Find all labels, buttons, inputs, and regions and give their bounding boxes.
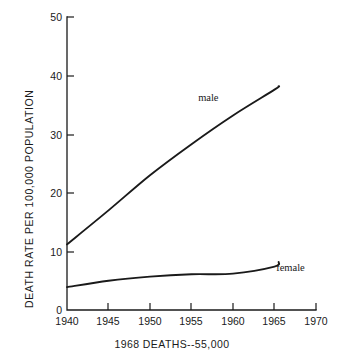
y-tick-label-10: 10	[50, 246, 62, 258]
x-tick-label-1955: 1955	[179, 315, 203, 327]
y-tick-label-30: 30	[50, 129, 62, 141]
x-tick-label-1940: 1940	[55, 315, 79, 327]
x-tick-marks	[108, 303, 316, 310]
x-tick-label-1945: 1945	[96, 315, 120, 327]
y-tick-label-20: 20	[50, 187, 62, 199]
x-tick-label-1965: 1965	[262, 315, 286, 327]
y-tick-marks	[67, 17, 74, 252]
series-label-male: male	[198, 92, 219, 103]
chart-figure: DEATH RATE PER 100,000 POPULATION 50 40 …	[0, 0, 344, 364]
line-chart: DEATH RATE PER 100,000 POPULATION 50 40 …	[0, 0, 344, 364]
x-tick-label-1950: 1950	[138, 315, 162, 327]
series-line-female	[67, 262, 279, 287]
series-line-male	[67, 86, 279, 244]
chart-caption: 1968 DEATHS--55,000	[115, 338, 230, 350]
x-tick-label-1960: 1960	[221, 315, 245, 327]
x-tick-label-1970: 1970	[304, 315, 328, 327]
series-label-female: female	[276, 262, 305, 273]
y-tick-label-40: 40	[50, 70, 62, 82]
y-tick-label-50: 50	[50, 11, 62, 23]
y-axis-title: DEATH RATE PER 100,000 POPULATION	[23, 90, 35, 308]
